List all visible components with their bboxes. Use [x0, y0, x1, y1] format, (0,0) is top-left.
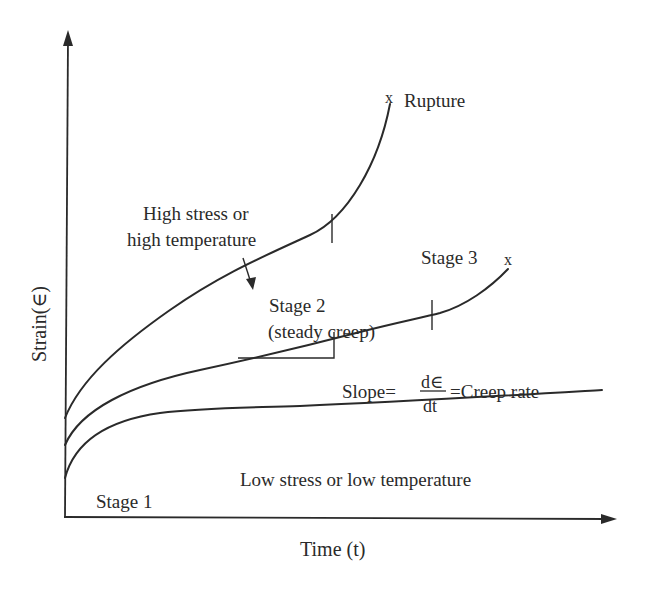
low-stress-curve: [65, 390, 602, 478]
x-axis: [64, 517, 606, 519]
slope-prefix: Slope=: [342, 381, 396, 402]
stage3-label: Stage 3: [421, 247, 477, 268]
slope-numerator: d∈: [421, 372, 443, 392]
high-stress-curve: [65, 104, 390, 418]
rupture-label: Rupture: [404, 90, 465, 111]
axes: [63, 30, 617, 524]
x-axis-label: Time (t): [300, 538, 365, 561]
low-stress-label: Low stress or low temperature: [240, 469, 471, 490]
y-axis-arrow-icon: [63, 30, 73, 46]
pointer-arrow-head-icon: [246, 277, 256, 290]
stage1-label: Stage 1: [96, 491, 152, 512]
creep-curve-diagram: x Rupture High stress or high temperatur…: [0, 0, 646, 589]
y-axis-label: Strain(∈): [28, 286, 51, 362]
high-stress-label-line1: High stress or: [143, 203, 249, 224]
slope-annotation: Slope= d∈ dt =Creep rate: [342, 372, 539, 416]
rupture-x-marker: x: [385, 89, 393, 106]
stage3-x-marker: x: [504, 251, 512, 268]
high-stress-label-line2: high temperature: [127, 229, 256, 250]
steady-creep-label: (steady creep): [268, 321, 375, 343]
stage2-label: Stage 2: [269, 295, 325, 316]
x-axis-arrow-icon: [601, 514, 617, 524]
